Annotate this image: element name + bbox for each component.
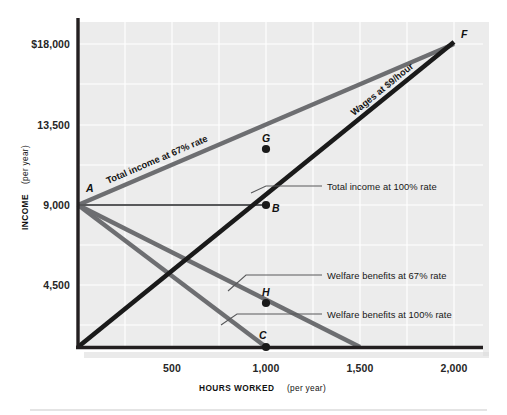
point-marker-G	[262, 145, 270, 153]
point-label-A: A	[85, 182, 94, 194]
y-tick-label-4500: 4,500	[43, 279, 70, 291]
x-tick-label-1000: 1,000	[253, 362, 280, 374]
y-tick-label-18000: $18,000	[31, 38, 70, 50]
series-label-welfare-100: Welfare benefits at 100% rate	[327, 309, 452, 320]
point-label-B: B	[272, 202, 280, 214]
series-label-total-income-100: Total income at 100% rate	[327, 181, 437, 192]
point-label-G: G	[262, 132, 270, 144]
x-tick-label-1500: 1,500	[347, 362, 374, 374]
x-tick-label-2000: 2,000	[441, 362, 468, 374]
y-axis-title-sub: (per year)	[20, 145, 30, 184]
plot-shadow	[84, 352, 489, 358]
point-label-H: H	[262, 286, 270, 298]
y-axis-title-bold: INCOME	[20, 194, 30, 230]
point-label-F: F	[461, 28, 468, 40]
y-tick-label-13500: 13,500	[37, 119, 70, 131]
point-marker-C	[262, 343, 270, 351]
series-label-welfare-67: Welfare benefits at 67% rate	[327, 270, 447, 281]
x-tick-label-500: 500	[163, 362, 181, 374]
point-label-C: C	[259, 329, 267, 341]
point-marker-H	[262, 299, 270, 307]
welfare-rate-line-chart: A B C F G H Total income at 67% rate Wag…	[0, 0, 507, 415]
y-tick-label-9000: 9,000	[43, 199, 70, 211]
x-axis-title-sub: (per year)	[287, 383, 326, 393]
plot-shadow-right	[483, 22, 489, 356]
x-axis-title: HOURS WORKED (per year)	[199, 383, 326, 393]
x-axis-title-bold: HOURS WORKED	[199, 383, 274, 393]
chart-figure: A B C F G H Total income at 67% rate Wag…	[0, 0, 507, 415]
point-marker-B	[262, 201, 270, 209]
